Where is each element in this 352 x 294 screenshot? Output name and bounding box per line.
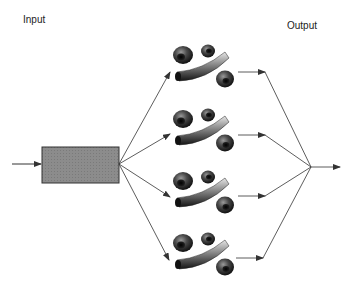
fan-out-arrows — [119, 72, 170, 260]
branch-group-2 — [173, 109, 234, 152]
flow-diagram — [0, 0, 352, 294]
branch-group-3 — [173, 171, 234, 214]
branch-group-4 — [173, 233, 234, 276]
converging-lines — [263, 72, 311, 258]
source-box — [42, 147, 119, 183]
branch-group-1 — [173, 45, 234, 88]
branch-output-arrows — [236, 72, 265, 258]
